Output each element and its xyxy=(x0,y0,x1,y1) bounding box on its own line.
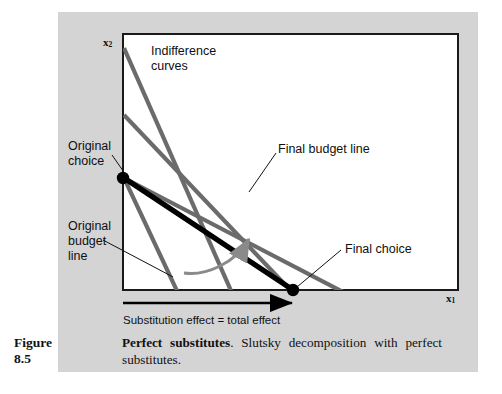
axis-label-x-sub: 1 xyxy=(452,296,456,305)
figure-number: Figure 8.5 xyxy=(14,335,84,368)
final-choice-point xyxy=(287,284,299,296)
figure-caption-title: Perfect substitutes xyxy=(122,335,230,350)
figure-caption: Perfect substitutes. Slutsky decompositi… xyxy=(122,335,442,368)
final-budget-leader-line xyxy=(249,153,276,192)
annotation-original-choice: Original choice xyxy=(68,139,130,169)
axis-label-y: x2 xyxy=(103,36,112,49)
annotation-indifference-curves: Indifference curves xyxy=(151,44,271,74)
annotation-original-budget-line: Original budget line xyxy=(68,219,132,263)
annotation-final-choice: Final choice xyxy=(345,242,455,257)
figure-number-line1: Figure xyxy=(14,335,84,351)
substitution-effect-label: Substitution effect = total effect xyxy=(123,314,280,326)
indifference-curve-3 xyxy=(124,178,345,293)
figure-number-line2: 8.5 xyxy=(14,351,84,367)
indifference-curve-2 xyxy=(124,115,293,293)
annotation-final-budget-line: Final budget line xyxy=(278,142,418,157)
axis-label-x: x1 xyxy=(446,292,455,305)
axis-label-y-sub: 2 xyxy=(109,40,113,49)
figure-page: x2 x1 Indifference curves Original choic… xyxy=(0,0,502,394)
original-choice-point xyxy=(117,172,129,184)
